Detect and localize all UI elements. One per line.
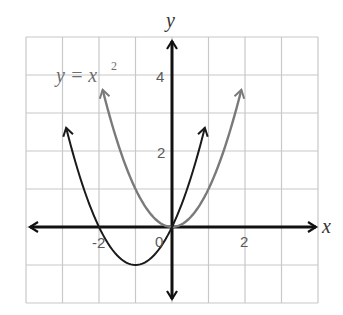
x-tick-label-neg2: -2 bbox=[92, 234, 105, 251]
y-tick-label-4: 4 bbox=[156, 68, 164, 85]
x-tick-label-0: 0 bbox=[155, 233, 163, 250]
curve-label-y-equals-x-squared: y = x bbox=[54, 64, 97, 87]
x-axis-label: x bbox=[321, 215, 331, 237]
x-tick-label-2: 2 bbox=[240, 233, 248, 250]
y-tick-label-2: 2 bbox=[157, 144, 165, 161]
y-axis-label: y bbox=[164, 9, 175, 32]
curve-label-superscript: 2 bbox=[111, 59, 117, 73]
parabola-graph: x y -2 0 2 4 2 y = x 2 bbox=[0, 0, 343, 315]
